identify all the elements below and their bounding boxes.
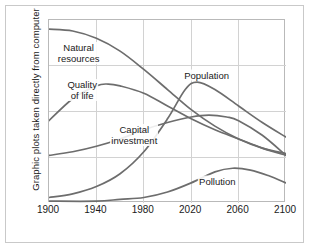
x-tick-label-2020: 2020 (179, 204, 201, 215)
x-tick-label-1940: 1940 (84, 204, 106, 215)
chart-figure: Graphic plots taken directly from comput… (0, 0, 310, 249)
x-tick-label-1900: 1900 (37, 204, 59, 215)
x-axis-tick-labels: 190019401980202020602100 (48, 204, 285, 220)
x-tick-label-1980: 1980 (132, 204, 154, 215)
plot-area: Natural resourcesQuality of lifeCapital … (48, 19, 285, 202)
curve-population (49, 82, 286, 197)
series-curves (49, 29, 286, 201)
x-tick-label-2100: 2100 (274, 204, 296, 215)
x-tick-label-2060: 2060 (226, 204, 248, 215)
curve-capital-investment (49, 115, 286, 155)
plot-canvas (49, 20, 286, 203)
curve-pollution (49, 168, 286, 201)
